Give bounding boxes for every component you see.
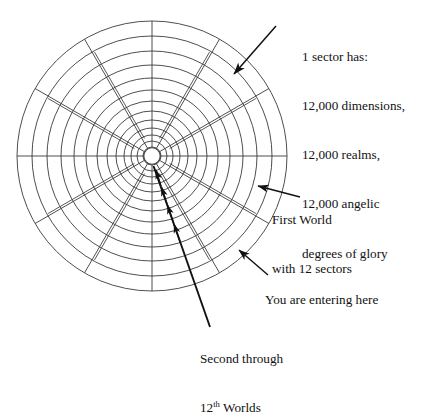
entering-here-line-1: You are entering here bbox=[265, 292, 378, 308]
second-worlds-line-2: 12th Worlds bbox=[200, 400, 283, 416]
leader-line-sector-info bbox=[234, 26, 276, 74]
second-worlds-number: 12 bbox=[200, 400, 213, 415]
second-worlds-line-1: Second through bbox=[200, 351, 283, 367]
leader-line-entering-here bbox=[239, 250, 268, 275]
second-worlds-ordinal-suffix: th bbox=[213, 399, 220, 409]
sector-info-line-1: 1 sector has: bbox=[302, 49, 405, 65]
second-worlds-word: Worlds bbox=[220, 400, 261, 415]
sector-info-line-3: 12,000 realms, bbox=[302, 147, 405, 163]
polar-center-hole bbox=[144, 148, 160, 164]
first-world-line-1: First World bbox=[272, 212, 352, 228]
sector-info-line-2: 12,000 dimensions, bbox=[302, 98, 405, 114]
second-through-twelfth-worlds-callout: Second through 12th Worlds bbox=[200, 318, 283, 416]
